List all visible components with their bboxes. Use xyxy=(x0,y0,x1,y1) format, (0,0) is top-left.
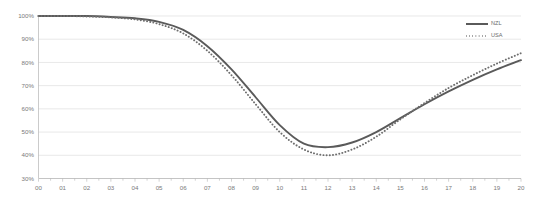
y-axis-tick-label: 90% xyxy=(22,35,35,42)
x-axis-tick-label: 02 xyxy=(83,184,90,191)
x-axis-tick-label: 06 xyxy=(180,184,187,191)
x-axis-tick-label: 05 xyxy=(156,184,163,191)
x-axis-tick-label: 18 xyxy=(469,184,476,191)
y-axis-tick-label: 40% xyxy=(22,151,35,158)
x-axis-tick-label: 10 xyxy=(276,184,283,191)
x-axis-tick-labels: 0001020304050607080910111213141516171819… xyxy=(35,184,525,191)
x-axis-tick-label: 09 xyxy=(252,184,259,191)
x-axis-tick-label: 11 xyxy=(301,184,308,191)
y-axis-tick-label: 50% xyxy=(22,128,35,135)
x-axis-ticks xyxy=(39,179,522,182)
x-axis-tick-label: 13 xyxy=(349,184,356,191)
x-axis-tick-label: 15 xyxy=(397,184,404,191)
x-axis-tick-label: 17 xyxy=(445,184,452,191)
x-axis-tick-label: 03 xyxy=(107,184,114,191)
x-axis-tick-label: 01 xyxy=(59,184,66,191)
x-axis-tick-label: 04 xyxy=(132,184,139,191)
x-axis-tick-label: 08 xyxy=(228,184,235,191)
y-axis-tick-label: 70% xyxy=(22,82,35,89)
x-axis-tick-label: 16 xyxy=(421,184,428,191)
y-axis-tick-label: 30% xyxy=(22,175,35,182)
y-axis-tick-label: 80% xyxy=(22,59,35,66)
x-axis-tick-label: 00 xyxy=(35,184,42,191)
y-axis-tick-label: 100% xyxy=(18,12,34,19)
y-axis-tick-labels: 100%90%80%70%60%50%40%30% xyxy=(18,12,34,182)
x-axis-tick-label: 19 xyxy=(493,184,500,191)
legend-label-nzl: NZL xyxy=(491,20,502,26)
x-axis-tick-label: 12 xyxy=(325,184,332,191)
chart-canvas: 100%90%80%70%60%50%40%30% 00010203040506… xyxy=(0,0,538,206)
series-line-nzl xyxy=(39,16,522,147)
chart-legend: NZLUSA xyxy=(466,20,503,38)
x-axis-tick-label: 20 xyxy=(518,184,525,191)
x-axis-tick-label: 14 xyxy=(373,184,380,191)
line-chart: 100%90%80%70%60%50%40%30% 00010203040506… xyxy=(0,0,538,206)
x-axis-tick-label: 07 xyxy=(204,184,211,191)
legend-label-usa: USA xyxy=(491,32,503,38)
gridlines xyxy=(39,16,522,179)
y-axis-tick-label: 60% xyxy=(22,105,35,112)
